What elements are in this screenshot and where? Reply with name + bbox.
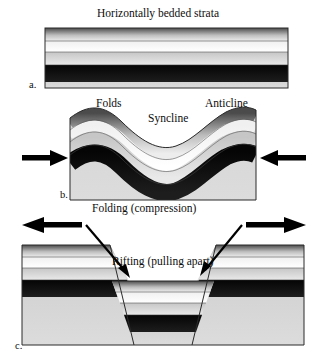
panel-c-tag: c.	[15, 341, 22, 352]
stratum-light-sandstone-unit-a	[45, 41, 288, 52]
extension-arrow-left	[22, 217, 82, 233]
stratum-shale-top-unit-c-left	[22, 245, 116, 257]
stratum-pale-limestone-unit-c-graben	[120, 303, 206, 315]
stratum-pale-limestone-unit-c-right	[199, 268, 304, 280]
compression-arrow-left	[22, 150, 68, 166]
stratum-dark-coal-unit-c-graben	[124, 315, 202, 332]
fold-label-syncline: Syncline	[148, 113, 188, 125]
panel-c-caption: Rifting (pulling apart)	[112, 256, 214, 268]
stratum-shale-top-unit-c-graben	[112, 281, 214, 292]
compression-arrow-right	[260, 150, 306, 166]
stratum-light-sandstone-unit-c-left	[22, 257, 121, 268]
panel-b-caption: Folding (compression)	[92, 203, 196, 215]
stratum-pale-limestone-unit-a	[45, 52, 288, 65]
panel-c-rifting	[22, 217, 306, 345]
stratum-basal-grey-unit-c-right	[190, 297, 304, 345]
stratum-basal-grey-unit-c-graben	[130, 332, 196, 345]
extension-arrow-right	[246, 217, 306, 233]
stratum-basal-grey-unit-a	[45, 82, 288, 88]
stratum-light-sandstone-unit-c-graben	[116, 292, 210, 303]
fold-label-anticline: Anticline	[205, 98, 248, 110]
panel-a-heading: Horizontally bedded strata	[97, 8, 219, 20]
panel-a-horizontal-strata	[45, 28, 288, 88]
stratum-dark-coal-unit-a	[45, 65, 288, 82]
panel-a-strata-stack	[45, 28, 288, 88]
stratum-shale-top-unit-a	[45, 28, 288, 41]
panel-a-tag: a.	[29, 80, 36, 91]
stratum-pale-limestone-unit-c-left	[22, 268, 127, 280]
panel-b-tag: b.	[60, 190, 68, 201]
stratum-basal-grey-unit-c-left	[22, 297, 136, 345]
stratum-light-sandstone-unit-c-right	[205, 257, 304, 268]
fold-label-folds: Folds	[96, 98, 122, 110]
geologic-structures-figure	[0, 0, 326, 362]
